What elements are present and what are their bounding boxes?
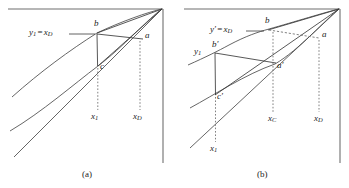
tick-label-xD-a: xD <box>133 112 142 121</box>
point-label-bprime-b: b′ <box>212 40 219 49</box>
caption-b: (b) <box>257 169 268 179</box>
point-label-c-a: c <box>100 62 104 71</box>
point-label-b-a: b <box>94 19 99 28</box>
tick-label-x1-a: x1 <box>91 112 98 121</box>
point-label-a-a: a <box>145 31 150 40</box>
tick-label-xC-b: xC <box>268 114 277 123</box>
tick-label-x1-b: x1 <box>210 144 217 153</box>
caption-a: (a) <box>82 169 92 179</box>
point-label-cprime-b: c′ <box>217 92 223 101</box>
point-label-a-b: a <box>322 30 327 39</box>
panel-a-drawing <box>0 0 175 188</box>
point-label-b-b: b <box>265 16 270 25</box>
segment-bprime-aprime <box>215 53 276 63</box>
panel-a: y1=xD b a c x1 xD (a) <box>0 0 175 188</box>
chord-b-corner-a <box>97 9 162 33</box>
segment-bprime-cprime <box>215 53 216 95</box>
axis-label-y1-b: y1 <box>194 47 201 56</box>
axis-label-y1-xD-a: y1=xD <box>29 28 53 37</box>
curve-upper-b <box>188 9 339 65</box>
point-label-aprime-b: a′ <box>277 61 284 70</box>
axis-label-yprime-xD-b: y′=xD <box>210 25 232 34</box>
panel-b: y′=xD y1 b a b′ a′ c′ x1 xC xD (b) <box>174 0 349 188</box>
figure-root: y1=xD b a c x1 xD (a) <box>0 0 349 188</box>
tick-label-xD-b: xD <box>314 114 323 123</box>
chord-cprime-corner-b <box>215 9 339 95</box>
segment-b-c <box>97 34 98 66</box>
